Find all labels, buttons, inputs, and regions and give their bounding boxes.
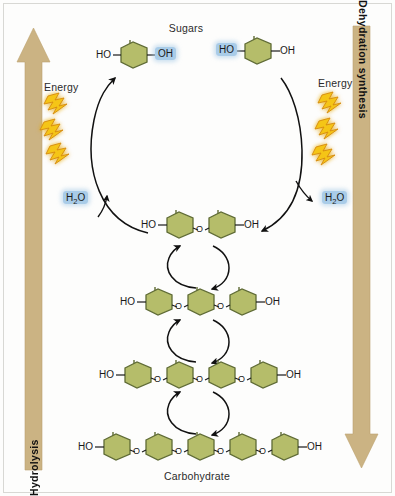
molecule-trisaccharide — [137, 287, 265, 315]
sugar-left-ho-group: HO — [96, 49, 111, 60]
disaccharide-oh-group: OH — [244, 219, 259, 230]
trisaccharide-ho-group: HO — [120, 296, 135, 307]
trisaccharide-oh-group: OH — [265, 296, 280, 307]
water-label-left: H2O — [63, 192, 88, 206]
water-out-arrow — [296, 181, 312, 201]
energy-bolts-left — [40, 93, 69, 164]
glycosidic-o-icon: O — [133, 446, 140, 456]
glycosidic-o-icon: O — [196, 224, 203, 234]
glycosidic-o-icon: O — [217, 301, 224, 311]
sugar-left-oh-group: OH — [155, 48, 176, 59]
pentasaccharide-ho-group: HO — [78, 441, 93, 452]
tetrasaccharide-ho-group: HO — [99, 369, 114, 380]
glycosidic-o-icon: O — [154, 374, 161, 384]
energy-label-right: Energy — [318, 77, 352, 89]
lightning-icon — [312, 144, 335, 165]
step-arrows-1 — [168, 246, 229, 289]
molecule-pentasaccharide — [95, 432, 307, 460]
diagram-vector-layer — [0, 0, 395, 496]
page-title-carbohydrate: Carbohydrate — [164, 470, 230, 482]
glycosidic-o-icon: O — [238, 374, 245, 384]
sugar-right-ho-group: HO — [216, 44, 237, 55]
lightning-icon — [315, 118, 338, 139]
energy-label-left: Energy — [44, 81, 78, 93]
glycosidic-o-icon: O — [217, 446, 224, 456]
dehydration-cycle-arc — [262, 78, 302, 231]
hydrolysis-label: Hydrolysis — [28, 0, 40, 496]
lightning-icon — [40, 119, 63, 140]
lightning-icon — [46, 143, 69, 164]
lightning-icon — [44, 93, 67, 114]
glycosidic-o-icon: O — [175, 301, 182, 311]
pentasaccharide-oh-group: OH — [307, 441, 322, 452]
glycosidic-o-icon: O — [175, 446, 182, 456]
molecule-sugar-left — [113, 40, 156, 68]
sugar-right-oh-group: OH — [280, 45, 295, 56]
energy-bolts-right — [312, 92, 341, 165]
tetrasaccharide-oh-group: OH — [286, 369, 301, 380]
page-title-sugars: Sugars — [169, 22, 203, 34]
step-arrows-3 — [168, 392, 229, 435]
glycosidic-o-icon: O — [259, 446, 266, 456]
diagram-canvas: Sugars Carbohydrate Energy Energy Hydrol… — [0, 0, 395, 496]
molecule-sugar-right — [237, 36, 280, 64]
dehydration-synthesis-label: Dehydration synthesis — [357, 0, 369, 496]
lightning-icon — [318, 92, 341, 113]
step-arrows-2 — [168, 320, 229, 363]
glycosidic-o-icon: O — [196, 374, 203, 384]
disaccharide-ho-group: HO — [141, 219, 156, 230]
hydrolysis-cycle-arc — [91, 78, 148, 233]
water-label-right: H2O — [322, 192, 347, 206]
